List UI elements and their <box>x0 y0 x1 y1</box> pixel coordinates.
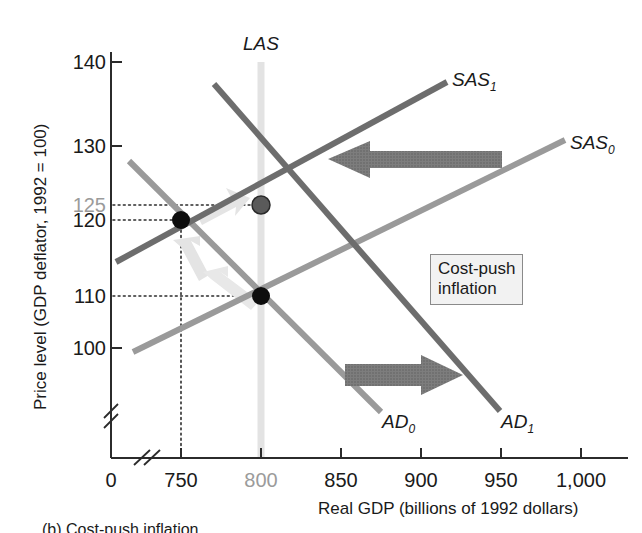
curve-label-sas1: SAS1 <box>452 70 497 93</box>
x-tick-label-950: 950 <box>466 470 536 490</box>
y-tick-label-100: 100 <box>58 338 106 358</box>
curve-label-las-text: LAS <box>243 33 279 54</box>
y-tick-label-120: 120 <box>58 210 106 230</box>
curve-label-sas1-text: SAS <box>452 69 490 90</box>
adjustment-arrow-lower <box>173 236 209 281</box>
point-initial-equilibrium <box>252 287 270 305</box>
x-axis-ticks <box>181 448 581 458</box>
curve-label-ad0-sub: 0 <box>408 422 415 436</box>
x-tick-label-1000: 1,000 <box>543 470 619 490</box>
x-tick-label-800: 800 <box>226 470 296 490</box>
cost-push-inflation-figure: 140 130 125 120 110 100 0 750 800 850 90… <box>0 0 642 533</box>
ad-shift-arrow <box>345 355 463 395</box>
callout-line-1: Cost-push <box>438 259 515 279</box>
curve-label-las: LAS <box>243 34 279 53</box>
x-tick-label-750: 750 <box>146 470 216 490</box>
curve-sas1 <box>116 82 447 262</box>
y-tick-label-130: 130 <box>58 136 106 156</box>
curve-label-ad0-text: AD <box>382 411 408 432</box>
axis-break-marks <box>104 404 160 465</box>
curve-label-sas0-text: SAS <box>570 132 608 153</box>
sas-shift-arrow <box>328 141 502 178</box>
curve-label-sas0-sub: 0 <box>608 143 615 157</box>
curve-label-ad1-sub: 1 <box>527 422 534 436</box>
cost-push-inflation-callout: Cost-push inflation <box>430 254 523 305</box>
x-axis-title: Real GDP (billions of 1992 dollars) <box>318 500 578 517</box>
y-axis-title: Price level (GDP deflator, 1992 = 100) <box>32 124 49 411</box>
point-final-equilibrium <box>252 196 270 214</box>
y-tick-label-140: 140 <box>58 52 106 72</box>
curve-label-ad1: AD1 <box>501 412 534 435</box>
x-tick-label-900: 900 <box>386 470 456 490</box>
callout-line-2: inflation <box>438 279 515 299</box>
curve-label-ad0: AD0 <box>382 412 415 435</box>
y-tick-label-110: 110 <box>58 286 106 306</box>
chart-canvas <box>0 0 642 533</box>
curve-label-sas0: SAS0 <box>570 133 615 156</box>
curve-label-sas1-sub: 1 <box>490 80 497 94</box>
curve-sas0 <box>133 140 565 352</box>
x-tick-label-850: 850 <box>306 470 376 490</box>
x-tick-label-0: 0 <box>91 470 131 490</box>
point-cost-push-equilibrium <box>172 211 190 229</box>
curve-label-ad1-text: AD <box>501 411 527 432</box>
figure-caption: (b) Cost-push inflation <box>42 521 199 533</box>
